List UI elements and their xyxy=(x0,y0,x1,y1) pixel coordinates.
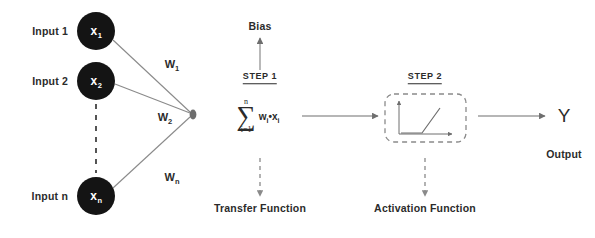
weight-label-n: Wn xyxy=(165,172,180,183)
summation-term: wi•xi xyxy=(259,111,280,122)
node-symbol-1: x xyxy=(91,24,98,38)
summation-formula: n ∑ i=1 wi•xi xyxy=(236,98,279,134)
step-1-label: STEP 1 xyxy=(243,72,277,84)
node-subscript-2: 2 xyxy=(98,81,102,90)
weight-line-1 xyxy=(113,40,190,112)
weight-label-2: W2 xyxy=(158,112,173,123)
input-label-1: Input 1 xyxy=(0,26,68,37)
neuron-diagram: Input 1 Input 2 Input n x1 x2 xn W1 W2 W… xyxy=(0,0,595,238)
summation-weight-subscript: i xyxy=(267,117,269,124)
weight-symbol-1: W xyxy=(165,58,175,70)
input-node-label-2: x2 xyxy=(91,75,102,87)
node-symbol-2: x xyxy=(91,74,98,88)
weight-symbol-2: W xyxy=(158,111,168,123)
input-label-2: Input 2 xyxy=(0,76,68,87)
sigma-lower-limit: i=1 xyxy=(241,126,252,134)
activation-plot-curve xyxy=(401,108,440,133)
weight-label-1: W1 xyxy=(165,59,180,70)
weight-symbol-n: W xyxy=(165,171,175,183)
summing-junction xyxy=(190,110,197,120)
summation-input-subscript: i xyxy=(278,117,280,124)
node-subscript-1: 1 xyxy=(98,31,102,40)
weight-subscript-2: 2 xyxy=(168,116,172,125)
weight-line-2 xyxy=(115,84,190,113)
activation-box xyxy=(385,94,466,142)
activation-function-caption: Activation Function xyxy=(374,203,476,214)
input-node-label-1: x1 xyxy=(91,25,102,37)
output-symbol: Y xyxy=(558,106,571,125)
bias-label: Bias xyxy=(249,21,272,32)
weight-subscript-1: 1 xyxy=(175,63,179,72)
input-label-n: Input n xyxy=(0,191,68,202)
input-node-label-n: xn xyxy=(90,190,101,202)
step-2-label: STEP 2 xyxy=(408,72,442,84)
weight-subscript-n: n xyxy=(175,176,180,185)
node-subscript-n: n xyxy=(98,196,103,205)
sigma-icon: ∑ xyxy=(236,105,255,127)
summation-weight-symbol: w xyxy=(259,111,267,122)
transfer-function-caption: Transfer Function xyxy=(214,203,306,214)
output-caption: Output xyxy=(546,149,582,160)
node-symbol-n: x xyxy=(90,189,97,203)
sigma-stack: n ∑ i=1 xyxy=(236,98,255,134)
